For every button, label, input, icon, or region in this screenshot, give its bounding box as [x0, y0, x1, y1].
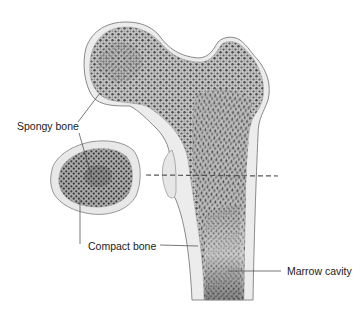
leader-spongy-to-head [78, 93, 100, 122]
label-marrow-cavity: Marrow cavity [287, 265, 352, 277]
femur-illustration [0, 0, 362, 309]
cross-section-center [84, 165, 112, 187]
label-compact-bone: Compact bone [88, 240, 156, 252]
label-spongy-bone: Spongy bone [17, 120, 79, 132]
head-dense-spongy [98, 42, 142, 82]
lesser-trochanter-bump [162, 150, 176, 198]
marrow-shading [204, 200, 244, 300]
bone-diagram: Spongy bone Compact bone Marrow cavity [0, 0, 362, 309]
